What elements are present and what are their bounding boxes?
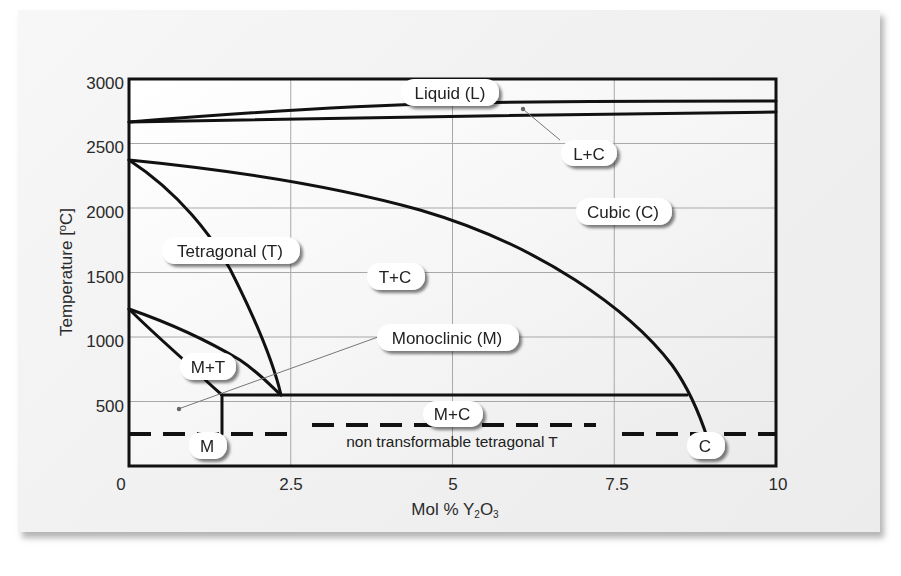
x-axis-label: Mol % Y2O3: [411, 500, 499, 520]
svg-text:Cubic (C): Cubic (C): [587, 203, 659, 222]
label-m: M: [189, 432, 227, 459]
lc-leader-dot: [521, 107, 525, 111]
svg-text:M+T: M+T: [191, 358, 225, 377]
monoclinic-leader-dot: [177, 407, 181, 411]
label-t-plus-c: T+C: [367, 263, 425, 290]
svg-text:C: C: [699, 437, 711, 456]
x-axis-ticks: 0 2.5 5 7.5 10: [116, 475, 787, 494]
svg-text:Liquid (L): Liquid (L): [415, 84, 486, 103]
label-monoclinic: Monoclinic (M): [377, 324, 519, 351]
label-m-plus-t: M+T: [180, 353, 236, 380]
x-tick-2.5: 2.5: [279, 475, 303, 494]
y-tick-3000: 3000: [86, 74, 124, 93]
label-non-transformable: non transformable tetragonal T: [346, 433, 558, 450]
x-tick-7.5: 7.5: [605, 475, 629, 494]
y-axis-label: Temperature [oC]: [56, 208, 76, 336]
y-tick-2000: 2000: [86, 203, 124, 222]
svg-text:M+C: M+C: [434, 405, 470, 424]
svg-text:L+C: L+C: [573, 145, 605, 164]
x-tick-0: 0: [116, 475, 125, 494]
svg-text:T+C: T+C: [379, 268, 412, 287]
label-c: C: [687, 432, 725, 459]
label-liquid: Liquid (L): [401, 79, 499, 106]
label-l-plus-c: L+C: [561, 140, 617, 166]
y-tick-1000: 1000: [86, 332, 124, 351]
label-m-plus-c: M+C: [423, 401, 483, 427]
svg-text:Tetragonal (T): Tetragonal (T): [177, 242, 283, 261]
label-cubic: Cubic (C): [576, 198, 672, 225]
label-tetragonal: Tetragonal (T): [162, 237, 300, 264]
x-tick-5: 5: [448, 475, 457, 494]
x-tick-10: 10: [769, 475, 788, 494]
svg-text:Monoclinic (M): Monoclinic (M): [392, 329, 503, 348]
phase-diagram: 500 1000 1500 2000 2500 3000 0 2.5 5 7.5…: [0, 0, 901, 576]
y-axis-ticks: 500 1000 1500 2000 2500 3000: [86, 74, 124, 416]
y-tick-500: 500: [96, 397, 124, 416]
y-tick-2500: 2500: [86, 138, 124, 157]
svg-text:M: M: [200, 437, 214, 456]
y-tick-1500: 1500: [86, 268, 124, 287]
